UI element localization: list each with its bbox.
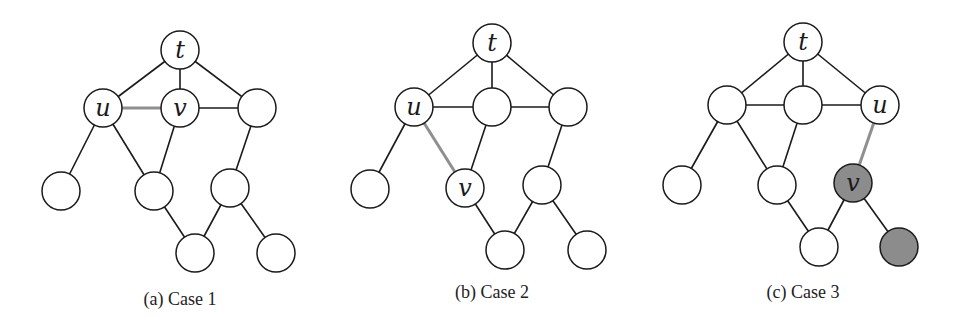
node xyxy=(135,172,173,210)
node-label-u: u xyxy=(406,93,421,121)
node xyxy=(549,88,587,126)
panel-caption: (a) Case 1 xyxy=(144,289,217,310)
node xyxy=(351,170,389,208)
graph-cases-figure: tuv(a) Case 1 tuv(b) Case 2 tuv(c) Case … xyxy=(0,0,956,327)
node-label-v: v xyxy=(458,174,472,202)
panel-caption: (c) Case 3 xyxy=(767,282,840,303)
node xyxy=(800,228,838,266)
node-label-u: u xyxy=(872,91,887,119)
node xyxy=(176,234,214,272)
shaded-node xyxy=(880,228,918,266)
node-label-v: v xyxy=(846,169,860,197)
node xyxy=(784,86,822,124)
node-label-t: t xyxy=(798,28,808,56)
node xyxy=(708,86,746,124)
node-label-u: u xyxy=(95,94,110,122)
node xyxy=(758,166,796,204)
node xyxy=(42,172,80,210)
node xyxy=(568,231,606,269)
node xyxy=(486,231,524,269)
node-label-t: t xyxy=(175,36,185,64)
panel-case-3: tuv(c) Case 3 xyxy=(663,23,918,303)
node-label-v: v xyxy=(173,94,187,122)
panel-caption: (b) Case 2 xyxy=(455,282,529,303)
node-label-t: t xyxy=(487,29,497,57)
node xyxy=(473,88,511,126)
node xyxy=(211,169,249,207)
node xyxy=(257,234,295,272)
panel-case-2: tuv(b) Case 2 xyxy=(351,24,606,303)
panel-case-1: tuv(a) Case 1 xyxy=(42,31,295,310)
node xyxy=(238,89,276,127)
node xyxy=(663,166,701,204)
node xyxy=(523,166,561,204)
